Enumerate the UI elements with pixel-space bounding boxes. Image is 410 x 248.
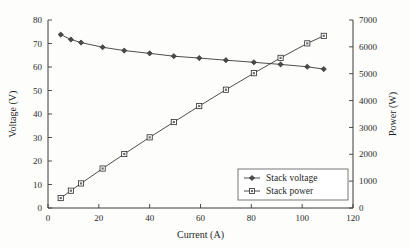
data-point-center — [123, 153, 125, 155]
y-right-tick-label-0: 0 — [359, 203, 364, 213]
data-point[interactable] — [171, 54, 176, 59]
x-tick-label-0: 0 — [46, 213, 51, 223]
y-left-tick-label-80: 80 — [33, 15, 43, 25]
legend-label-1: Stack power — [266, 186, 314, 196]
data-point[interactable] — [305, 64, 310, 69]
data-point-center — [279, 57, 281, 59]
data-point[interactable] — [100, 45, 105, 50]
x-tick-label-60: 60 — [196, 213, 206, 223]
chart-canvas: 0204060801001200102030405060708001000200… — [0, 0, 410, 248]
y-right-tick-label-3000: 3000 — [359, 123, 378, 133]
y-left-tick-label-60: 60 — [33, 62, 43, 72]
data-point[interactable] — [197, 55, 202, 60]
data-point-center — [198, 105, 200, 107]
y-right-tick-label-2000: 2000 — [359, 149, 378, 159]
data-point[interactable] — [147, 51, 152, 56]
legend-label-0: Stack voltage — [266, 173, 317, 183]
y-left-tick-label-50: 50 — [33, 86, 43, 96]
legend-marker-square-center — [251, 190, 253, 192]
data-point[interactable] — [78, 40, 83, 45]
y-right-tick-label-5000: 5000 — [359, 69, 378, 79]
data-point-center — [253, 72, 255, 74]
data-point-center — [173, 121, 175, 123]
x-tick-label-40: 40 — [145, 213, 155, 223]
data-point[interactable] — [223, 58, 228, 63]
x-tick-label-20: 20 — [94, 213, 104, 223]
y-left-axis-title: Voltage (V) — [7, 91, 19, 138]
y-right-tick-label-1000: 1000 — [359, 176, 378, 186]
y-right-axis-title: Power (W) — [387, 92, 399, 136]
y-left-tick-label-70: 70 — [33, 39, 43, 49]
data-point-center — [102, 167, 104, 169]
data-point[interactable] — [321, 67, 326, 72]
x-tick-label-80: 80 — [247, 213, 257, 223]
data-point[interactable] — [58, 32, 63, 37]
data-point[interactable] — [68, 37, 73, 42]
x-tick-label-100: 100 — [295, 213, 309, 223]
data-point[interactable] — [122, 48, 127, 53]
data-point-center — [225, 89, 227, 91]
y-left-tick-label-30: 30 — [33, 133, 43, 143]
y-right-tick-label-4000: 4000 — [359, 96, 378, 106]
y-left-tick-label-10: 10 — [33, 180, 43, 190]
data-point-center — [70, 190, 72, 192]
data-point[interactable] — [251, 60, 256, 65]
data-point-center — [306, 42, 308, 44]
y-left-tick-label-20: 20 — [33, 156, 43, 166]
data-point-center — [60, 197, 62, 199]
data-point-center — [80, 182, 82, 184]
chart-figure: 0204060801001200102030405060708001000200… — [0, 0, 410, 248]
y-left-tick-label-40: 40 — [33, 109, 43, 119]
data-point[interactable] — [278, 62, 283, 67]
data-point-center — [149, 136, 151, 138]
y-right-tick-label-6000: 6000 — [359, 42, 378, 52]
x-axis-title: Current (A) — [177, 229, 224, 241]
series-line-0 — [61, 35, 324, 70]
data-point-center — [323, 35, 325, 37]
y-right-tick-label-7000: 7000 — [359, 15, 378, 25]
x-tick-label-120: 120 — [346, 213, 360, 223]
y-left-tick-label-0: 0 — [38, 203, 43, 213]
